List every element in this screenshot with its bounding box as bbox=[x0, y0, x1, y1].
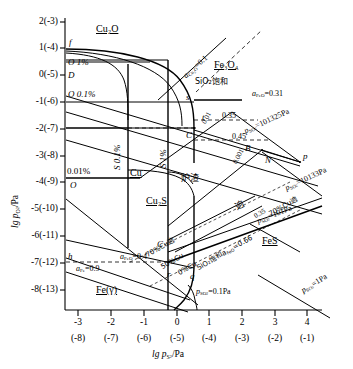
x-tick-1: -2 bbox=[97, 318, 125, 328]
y-tick-0: 2(-3) bbox=[14, 17, 58, 27]
x-tick2-5: (-3) bbox=[226, 334, 258, 344]
y-tick-8: -6(-11) bbox=[10, 231, 58, 241]
x-axis-title-main: lg p bbox=[152, 349, 167, 359]
y-axis-title-sub2: 2 bbox=[15, 207, 20, 209]
point-label-B: B bbox=[245, 144, 251, 153]
y-axis-title-main: lg p bbox=[10, 213, 20, 228]
axis-left bbox=[60, 18, 65, 310]
y-axis-title: lg pO2/Pa bbox=[11, 195, 22, 228]
axis-bottom bbox=[65, 310, 322, 316]
point-label-C-upper: C bbox=[186, 131, 192, 140]
region-label-slag: 炉渣 bbox=[181, 174, 199, 183]
point-label-O-left: O bbox=[70, 181, 77, 190]
annotation-o-01pct: O 0.1% bbox=[68, 90, 96, 99]
x-tick2-2: (-6) bbox=[128, 334, 160, 344]
point-label-q: q bbox=[190, 272, 195, 281]
a-feo-031-subscript: FeO bbox=[256, 93, 265, 98]
phase-diagram-figure: .ln{fill:none;stroke:#000;stroke-width:1… bbox=[0, 0, 353, 369]
annotation-o-1pct: O 1% bbox=[68, 58, 89, 67]
y-tick-6: -4(-9) bbox=[14, 177, 58, 187]
y-tick-9: -7(-12) bbox=[10, 258, 58, 268]
region-label-fes: FeS bbox=[262, 236, 278, 246]
x-tick-7: 4 bbox=[293, 318, 321, 328]
region-label-cu2s: Cu₂S bbox=[146, 196, 167, 206]
a-cu2o-line bbox=[158, 30, 262, 100]
annotation-a-feo-031: aFeO=0.31 bbox=[252, 90, 283, 99]
x-tick2-6: (-2) bbox=[259, 334, 291, 344]
annotation-a-feo-04: aFeO=0.4 bbox=[120, 253, 147, 262]
point-label-N: N bbox=[265, 156, 271, 165]
annotation-s-1pct: S 1% bbox=[159, 149, 168, 168]
point-label-D: D bbox=[68, 71, 75, 80]
so2-01-val: =0.1Pa bbox=[208, 287, 231, 296]
s-isoconcentration-lines bbox=[128, 60, 168, 310]
x-tick2-3: (-5) bbox=[161, 334, 193, 344]
x-tick-5: 2 bbox=[228, 318, 256, 328]
a-fe-09-value: =0.9 bbox=[85, 264, 100, 273]
annotation-sio2-saturation: SiO₂饱和 bbox=[195, 78, 228, 86]
a-feo-04-subscript: FeO bbox=[124, 256, 133, 261]
y-axis-title-unit: /Pa bbox=[10, 195, 20, 207]
a-feo-031-value: =0.31 bbox=[265, 89, 284, 98]
annotation-value-035: 0.35 bbox=[222, 112, 236, 120]
x-axis-ticks bbox=[78, 310, 307, 316]
x-tick2-0: (-8) bbox=[62, 334, 94, 344]
x-axis-title-unit: /Pa bbox=[172, 349, 184, 359]
y-tick-3: -1(-6) bbox=[14, 97, 58, 107]
x-tick-4: 1 bbox=[195, 318, 223, 328]
x-axis-title: lg pS2/Pa bbox=[152, 350, 184, 361]
x-tick2-1: (-7) bbox=[95, 334, 127, 344]
annotation-o-001pct: 0.01% bbox=[67, 167, 90, 176]
y-tick-2: 0(-5) bbox=[14, 70, 58, 80]
y-tick-1: 1(-4) bbox=[14, 43, 58, 53]
annotation-value-045: 0.45 bbox=[232, 133, 246, 141]
y-axis-ticks bbox=[60, 22, 65, 290]
y-tick-10: -8(-13) bbox=[10, 285, 58, 295]
point-label-s: s bbox=[186, 93, 190, 102]
annotation-s-01pct: S 0.1% bbox=[113, 145, 122, 171]
x-tick-3: 0 bbox=[163, 318, 191, 328]
annotation-a-fe-09: aFe=0.9 bbox=[76, 265, 99, 274]
y-tick-4: -2(-7) bbox=[14, 124, 58, 134]
region-label-fe3o4: Fe₃O₄ bbox=[214, 60, 238, 70]
y-axis-title-sub: O bbox=[15, 209, 21, 213]
point-label-p: p bbox=[303, 152, 308, 161]
point-label-f: f bbox=[69, 38, 72, 47]
region-label-cu: Cu bbox=[130, 168, 142, 178]
x-tick-0: -3 bbox=[64, 318, 92, 328]
y-tick-5: -3(-8) bbox=[14, 151, 58, 161]
pressure-label-so2-01: pSO2=0.1Pa bbox=[196, 288, 231, 297]
point-label-r: r bbox=[167, 270, 171, 279]
region-label-fe-gamma: Fe(γ) bbox=[96, 285, 117, 295]
x-tick-2: -1 bbox=[130, 318, 158, 328]
x-tick2-7: (-1) bbox=[291, 334, 323, 344]
region-label-cu2o: Cu₂O bbox=[96, 24, 118, 34]
x-tick2-4: (-4) bbox=[193, 334, 225, 344]
x-tick-6: 3 bbox=[261, 318, 289, 328]
point-label-h: h bbox=[68, 252, 73, 261]
